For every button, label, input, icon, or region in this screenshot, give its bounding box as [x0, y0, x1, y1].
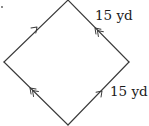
edge-lower-left	[4, 62, 68, 125]
single-arrow-icon	[96, 89, 105, 97]
parallelogram-diagram: 15 yd 15 yd	[0, 0, 149, 126]
side-length-label-upper: 15 yd	[95, 7, 133, 23]
side-length-label-lower: 15 yd	[110, 83, 148, 99]
stray-dot	[1, 6, 3, 8]
